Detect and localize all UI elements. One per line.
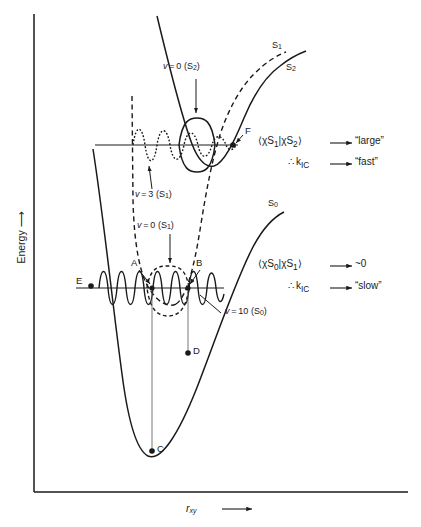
braket-close-upper: ⟩	[298, 135, 302, 146]
vib-label-v3-s1-eq: = 3	[140, 189, 154, 199]
annotation-upper-rate: ∴ kIC	[288, 156, 309, 170]
vib-label-v3-s1-state: (S	[156, 189, 165, 199]
arrow-point-a	[139, 270, 150, 284]
braket-chi1-lower: χS	[262, 258, 274, 269]
vib-label-v0-s1-close: )	[171, 220, 174, 230]
rate-constant-upper-sub: IC	[301, 160, 309, 170]
braket-close-lower: ⟩	[298, 258, 302, 269]
annotation-upper-braket: ⟨χS1|χS2⟩	[258, 135, 302, 149]
point-label-b: B	[196, 258, 202, 268]
rate-constant-lower-sub: IC	[301, 284, 309, 294]
vib-label-v3-s1-close: )	[169, 189, 172, 199]
point-marker-e	[88, 283, 94, 289]
annotation-lower-rate: ∴ kIC	[288, 280, 309, 294]
potential-energy-diagram: Energy ⟶ rxy S1 S2 S0 v = 0 (S2) v = 3 (…	[0, 0, 421, 527]
curve-label-s2: S2	[286, 63, 296, 73]
point-label-e: E	[76, 276, 82, 286]
curve-label-s1: S1	[272, 41, 282, 51]
point-marker-f	[230, 142, 236, 148]
braket-chi2-upper: χS	[281, 135, 293, 146]
point-marker-b	[185, 285, 190, 290]
vib-label-v3-s1: v = 3 (S1)	[135, 190, 172, 200]
annotation-lower-braket: ⟨χS0|χS1⟩	[258, 258, 302, 272]
point-label-f: F	[245, 126, 251, 136]
point-marker-a	[149, 285, 154, 290]
curve-label-s0: S0	[268, 199, 278, 209]
point-label-a: A	[131, 258, 137, 268]
vib-label-v0-s1-state: (S	[158, 220, 167, 230]
point-label-c: C	[157, 444, 164, 454]
x-axis-label-sub: xy	[190, 507, 197, 514]
vib-label-v0-s2-state: (S	[184, 61, 193, 71]
vib-label-v0-s1-eq: = 0	[142, 220, 156, 230]
point-marker-c	[149, 448, 155, 454]
y-axis-arrow-glyph: ⟶	[15, 212, 27, 227]
vib-label-v0-s2-close: )	[197, 61, 200, 71]
vib-label-v0-s2: v = 0 (S2)	[163, 62, 200, 72]
annotation-lower-result: ~0	[355, 258, 366, 269]
curve-label-s0-sub: 0	[274, 201, 278, 208]
vib-label-v10-s0: v = 10 (S0)	[225, 307, 267, 317]
braket-chi2-lower: χS	[281, 258, 293, 269]
point-label-d: D	[193, 346, 200, 356]
annotation-upper-rate-result: “fast”	[355, 156, 378, 167]
curve-label-s2-sub: 2	[292, 65, 296, 72]
vib-label-v10-s0-close: )	[264, 306, 267, 316]
y-axis-title: Energy ⟶	[15, 198, 27, 278]
annotation-upper-result: “large”	[355, 135, 384, 146]
vib-label-v0-s2-eq: = 0	[168, 61, 182, 71]
arrow-point-f	[236, 135, 243, 143]
curve-label-s1-sub: 1	[278, 43, 282, 50]
vib-label-v10-s0-eq: = 10	[230, 306, 249, 316]
therefore-symbol-upper: ∴	[288, 156, 294, 167]
vib-label-v0-s1: v = 0 (S1)	[137, 221, 174, 231]
braket-chi1-upper: χS	[262, 135, 274, 146]
therefore-symbol-lower: ∴	[288, 280, 294, 291]
annotation-lower-rate-result: “slow”	[355, 280, 382, 291]
vib-label-v10-s0-state: (S	[251, 306, 260, 316]
curve-s0	[93, 149, 284, 457]
y-axis-label-text: Energy	[15, 230, 27, 263]
point-marker-d	[185, 350, 191, 356]
x-axis-title: rxy	[186, 503, 197, 515]
axis-lines	[34, 14, 408, 492]
arrow-v3-s1	[149, 166, 152, 189]
